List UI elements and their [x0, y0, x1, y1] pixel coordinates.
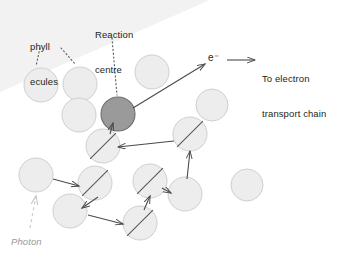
antenna-pigment-circle	[62, 98, 96, 132]
antenna-pigment-circle	[133, 164, 167, 198]
chlorophyll-label-line2: ecules	[30, 76, 58, 88]
electron-transport-chain-label: To electron transport chain	[262, 50, 326, 142]
antenna-pigment-circle	[123, 206, 157, 240]
photon-arrow	[30, 196, 36, 228]
energy-transfer-arrow	[187, 151, 190, 179]
antenna-pigment-circle	[78, 166, 112, 200]
reaction-centre-circle	[101, 97, 135, 131]
antenna-pigment-circle	[231, 169, 263, 201]
chlorophyll-leader-right	[61, 48, 76, 65]
photosystem-diagram: phyll ecules Reaction centre e⁻ To elect…	[0, 0, 343, 260]
photon-label: Photon	[11, 236, 42, 248]
energy-transfer-arrow	[118, 141, 174, 147]
electron-label: e⁻	[208, 52, 219, 64]
electron-transport-label-line1: To electron	[262, 73, 326, 85]
electron-transport-label-line2: transport chain	[262, 108, 326, 120]
antenna-pigment-circle	[86, 129, 120, 163]
antenna-pigment-circle	[196, 89, 228, 121]
reaction-centre-label-line2: centre	[95, 64, 133, 76]
chlorophyll-label-line1: phyll	[30, 41, 58, 53]
antenna-pigment-circle	[135, 55, 169, 89]
antenna-pigment-circle	[63, 67, 97, 101]
antenna-pigment-circle	[173, 117, 207, 151]
chlorophyll-molecules-label: phyll ecules	[30, 18, 58, 110]
antenna-pigment-circle	[168, 177, 202, 211]
reaction-centre-label-line1: Reaction	[95, 29, 133, 41]
antenna-pigment-circle	[19, 158, 53, 192]
reaction-centre-label: Reaction centre	[95, 6, 133, 98]
energy-transfer-arrow	[53, 179, 79, 186]
antenna-pigment-circle	[53, 194, 87, 228]
energy-transfer-arrow	[88, 215, 123, 224]
